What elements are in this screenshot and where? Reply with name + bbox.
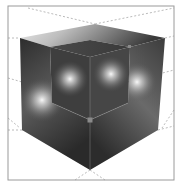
cube-cutout-figure: [0, 0, 181, 187]
vertex-marker-top-right: [128, 45, 131, 48]
inner-right-highlight: [93, 56, 129, 92]
vertex-marker-inner: [88, 118, 93, 123]
inner-left-highlight: [52, 61, 88, 97]
